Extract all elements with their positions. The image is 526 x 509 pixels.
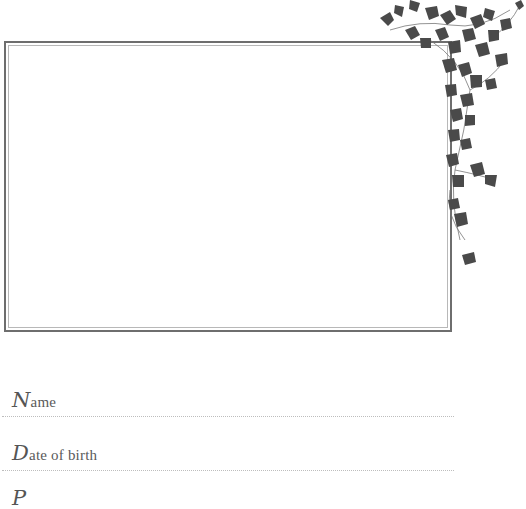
date-of-birth-line — [2, 470, 454, 471]
date-of-birth-label: Date of birth — [12, 441, 452, 465]
place-label: P — [12, 486, 452, 509]
name-line — [2, 416, 454, 417]
name-label: Name — [12, 388, 452, 412]
name-field[interactable]: Name — [12, 388, 452, 412]
place-field[interactable]: P — [12, 486, 452, 509]
ivy-vine-icon — [370, 0, 526, 270]
date-of-birth-field[interactable]: Date of birth — [12, 441, 452, 465]
